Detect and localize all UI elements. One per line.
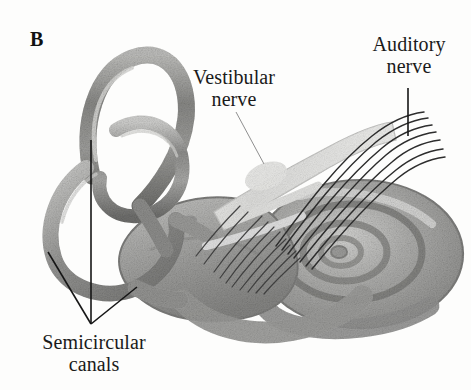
label-vestibular-nerve: Vestibular nerve — [178, 66, 290, 110]
label-semicircular-canals: Semicircular canals — [14, 331, 174, 375]
panel-letter: B — [30, 28, 43, 51]
inner-ear-figure: B Vestibular nerve Auditory nerve Semici… — [0, 0, 471, 390]
label-auditory-nerve: Auditory nerve — [357, 33, 461, 77]
leader-vestibular-nerve — [236, 112, 264, 164]
cochlea-apex — [331, 246, 347, 258]
